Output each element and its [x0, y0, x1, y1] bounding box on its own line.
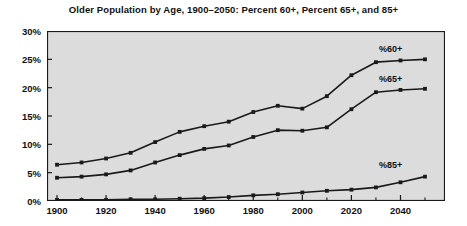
y-axis-tick-label: 20% [0, 82, 41, 93]
y-axis-tick-label: 5% [0, 167, 41, 178]
series-annotation: %85+ [379, 160, 402, 170]
chart-title: Older Population by Age, 1900–2050: Perc… [0, 4, 467, 15]
y-axis-tick-label: 0% [0, 196, 41, 207]
x-axis-tick-label: 2020 [341, 205, 362, 216]
x-axis-tick-label: 1900 [46, 205, 67, 216]
x-axis-tick-label: 2040 [390, 205, 411, 216]
series-annotation: %60+ [379, 44, 402, 54]
y-axis-tick-label: 15% [0, 111, 41, 122]
x-axis-tick-label: 2000 [292, 205, 313, 216]
series-annotation: %65+ [379, 74, 402, 84]
x-axis-tick-label: 1940 [145, 205, 166, 216]
plot-svg [47, 31, 445, 201]
y-axis-tick-label: 30% [0, 26, 41, 37]
plot-area [47, 31, 445, 201]
chart-figure: Older Population by Age, 1900–2050: Perc… [0, 0, 467, 226]
y-axis-tick-label: 10% [0, 139, 41, 150]
x-axis-tick-label: 1920 [95, 205, 116, 216]
y-axis-tick-label: 25% [0, 54, 41, 65]
x-axis-tick-label: 1980 [243, 205, 264, 216]
x-axis-tick-label: 1960 [194, 205, 215, 216]
